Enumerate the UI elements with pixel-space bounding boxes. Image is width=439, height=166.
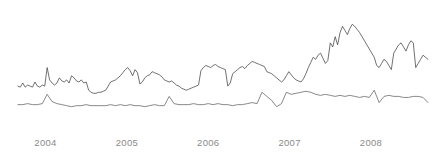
- x-tick-label-2008: 2008: [360, 137, 382, 148]
- x-tick-label-2006: 2006: [197, 137, 219, 148]
- series-line-upper: [18, 24, 428, 93]
- x-tick-label-2007: 2007: [278, 137, 300, 148]
- chart-container: 20042005200620072008: [0, 0, 439, 166]
- series-line-lower: [18, 90, 428, 106]
- x-tick-label-2004: 2004: [34, 137, 56, 148]
- x-tick-label-2005: 2005: [116, 137, 138, 148]
